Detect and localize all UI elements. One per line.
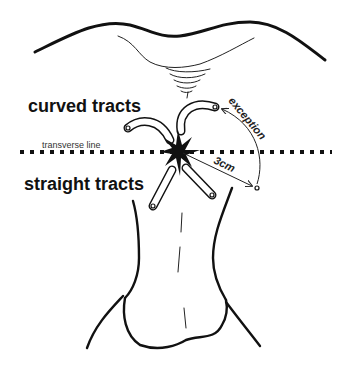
exception-label: exception: [226, 95, 268, 142]
external-opening: [255, 186, 259, 190]
perineum-outline: [87, 188, 260, 348]
fistula-tract-diagram: curved tracts straight tracts transverse…: [0, 0, 346, 366]
distance-label: 3cm: [212, 154, 237, 174]
curved-tract-right: [181, 105, 217, 131]
straight-tract-right: [186, 168, 214, 197]
buttock-contour: [35, 22, 325, 60]
anus-icon: [118, 36, 254, 98]
straight-tract-left: [151, 170, 172, 208]
transverse-line-label: transverse line: [42, 140, 101, 150]
curved-tract-left: [126, 122, 170, 140]
curved-tracts-label: curved tracts: [28, 96, 141, 116]
straight-tracts-label: straight tracts: [24, 174, 144, 194]
